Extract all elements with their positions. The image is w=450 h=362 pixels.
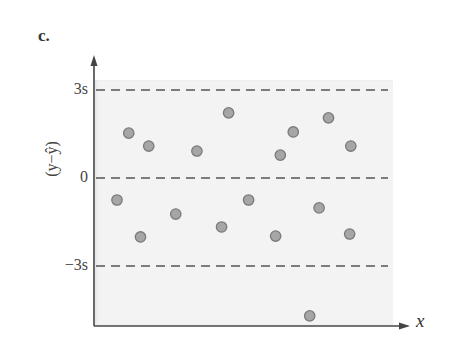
data-point bbox=[192, 146, 202, 156]
axes bbox=[91, 55, 411, 330]
data-point bbox=[275, 150, 285, 160]
data-point bbox=[124, 128, 134, 138]
data-point bbox=[243, 195, 253, 205]
data-point bbox=[144, 141, 154, 151]
data-point bbox=[135, 232, 145, 242]
data-point bbox=[216, 222, 226, 232]
y-axis-arrow-icon bbox=[91, 55, 98, 66]
data-point bbox=[346, 141, 356, 151]
x-axis-arrow-icon bbox=[399, 323, 410, 330]
data-point bbox=[314, 203, 324, 213]
data-point bbox=[305, 311, 315, 321]
data-point bbox=[323, 113, 333, 123]
ytick-neg3s: −3s bbox=[38, 256, 88, 274]
data-point bbox=[344, 229, 354, 239]
data-point bbox=[223, 108, 233, 118]
y-axis-label: (y−ŷ) bbox=[43, 129, 61, 189]
data-points bbox=[112, 108, 356, 321]
data-point bbox=[270, 231, 280, 241]
data-point bbox=[288, 127, 298, 137]
ytick-3s: 3s bbox=[38, 80, 88, 98]
x-axis-label: x bbox=[416, 310, 424, 332]
data-point bbox=[112, 195, 122, 205]
data-point bbox=[171, 209, 181, 219]
